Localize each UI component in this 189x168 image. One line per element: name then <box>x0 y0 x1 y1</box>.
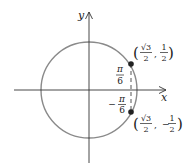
angle-label-lower: − π 6 <box>108 94 126 115</box>
y-axis-label: y <box>77 9 85 22</box>
svg-text:6: 6 <box>117 76 123 86</box>
svg-text:2: 2 <box>143 54 148 63</box>
paren-open: ( <box>133 44 139 62</box>
svg-text:−: − <box>108 99 116 109</box>
coord-label-upper: ( √3 2 , 1 2 ) <box>133 43 174 63</box>
svg-text:,: , <box>154 49 157 59</box>
point-upper <box>128 61 134 67</box>
svg-text:−: − <box>162 119 170 129</box>
svg-text:√3: √3 <box>141 43 151 52</box>
x-axis-label: x <box>161 91 168 104</box>
svg-text:1: 1 <box>169 114 174 123</box>
paren-close: ) <box>177 115 183 133</box>
svg-text:2: 2 <box>143 125 148 134</box>
svg-text:2: 2 <box>169 125 174 134</box>
point-lower <box>128 109 134 115</box>
coord-label-lower: ( √3 2 , − 1 2 ) <box>133 114 183 134</box>
svg-text:6: 6 <box>119 105 125 115</box>
paren-close: ) <box>168 44 174 62</box>
svg-text:,: , <box>154 120 157 130</box>
svg-text:π: π <box>118 94 126 104</box>
paren-open: ( <box>133 115 139 133</box>
svg-text:π: π <box>116 64 124 74</box>
svg-text:1: 1 <box>161 43 166 52</box>
angle-label-upper: π 6 <box>116 64 124 86</box>
svg-text:√3: √3 <box>141 114 151 123</box>
unit-circle-figure: y x π 6 − π 6 ( √3 2 , 1 2 ) ( √3 2 , − … <box>0 0 189 168</box>
svg-text:2: 2 <box>161 54 166 63</box>
